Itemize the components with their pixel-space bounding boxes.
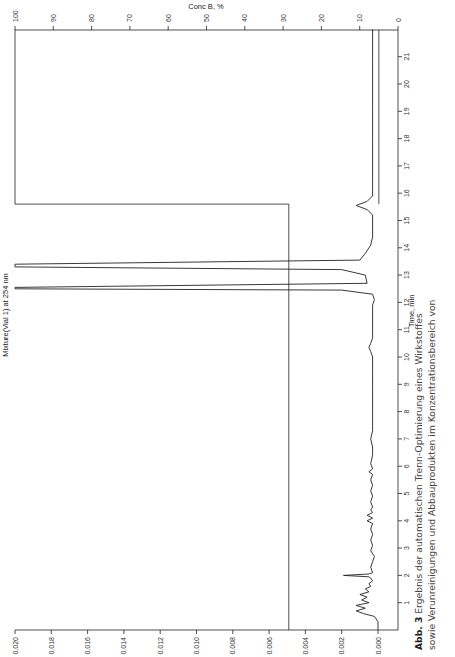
conc-b-tick-label: 50 — [203, 14, 210, 22]
absorbance-tick-label: 0.016 — [84, 637, 91, 655]
time-tick-label: 1 — [403, 601, 410, 605]
time-tick-label: 20 — [403, 80, 410, 88]
time-tick-label: 7 — [403, 437, 410, 441]
absorbance-tick-label: 0.008 — [229, 637, 236, 655]
time-tick-label: 15 — [403, 217, 410, 225]
conc-b-trace — [15, 29, 289, 630]
absorbance-tick-label: 0.010 — [193, 637, 200, 655]
time-tick-label: 19 — [403, 107, 410, 115]
chromatogram-chart: 1009080706050403020100123456789101112131… — [0, 0, 455, 657]
absorbance-tick-label: 0.020 — [12, 637, 19, 655]
time-tick-label: 5 — [403, 491, 410, 495]
conc-b-tick-label: 10 — [356, 14, 363, 22]
time-tick-label: 6 — [403, 464, 410, 468]
time-tick-label: 17 — [403, 162, 410, 170]
absorbance-tick-label: 0.014 — [120, 637, 127, 655]
conc-b-tick-label: 60 — [165, 14, 172, 22]
time-tick-label: 21 — [403, 53, 410, 61]
caption-label: Abb. 3 — [413, 617, 424, 650]
conc-b-tick-label: 40 — [241, 14, 248, 22]
time-tick-label: 3 — [403, 546, 410, 550]
absorbance-tick-label: 0.004 — [302, 637, 309, 655]
plot-area — [15, 29, 379, 630]
conc-b-tick-label: 30 — [280, 14, 287, 22]
conc-b-tick-label: 70 — [126, 14, 133, 22]
absorbance-tick-label: 0.006 — [266, 637, 273, 655]
conc-b-tick-label: 0 — [395, 18, 402, 22]
time-tick-label: 8 — [403, 410, 410, 414]
time-tick-label: 18 — [403, 135, 410, 143]
absorbance-tick-label: 0.002 — [338, 637, 345, 655]
conc-b-tick-label: 20 — [318, 14, 325, 22]
conc-b-tick-label: 100 — [12, 10, 19, 22]
time-tick-label: 14 — [403, 244, 410, 252]
time-tick-label: 2 — [403, 573, 410, 577]
absorbance-axis-title: Mixture(Vial 1) at 254 nm — [1, 273, 10, 357]
time-tick-label: 4 — [403, 519, 410, 523]
absorbance-trace — [15, 29, 378, 630]
caption-line-2: sowie Verunreinigungen und Abbauprodukte… — [425, 310, 438, 650]
conc-b-axis-title: Conc B, % — [188, 2, 224, 11]
absorbance-tick-label: 0.000 — [375, 637, 382, 655]
axes: 1009080706050403020100123456789101112131… — [12, 10, 411, 654]
absorbance-tick-label: 0.018 — [48, 637, 55, 655]
time-tick-label: 9 — [403, 382, 410, 386]
absorbance-tick-label: 0.012 — [157, 637, 164, 655]
time-tick-label: 10 — [403, 353, 410, 361]
figure-caption: Abb. 3 Ergebnis der automatischen Trenn-… — [412, 310, 438, 650]
time-tick-label: 16 — [403, 189, 410, 197]
conc-b-tick-label: 80 — [88, 14, 95, 22]
time-tick-label: 13 — [403, 271, 410, 279]
caption-line-1: Ergebnis der automatischen Trenn-Optimie… — [413, 313, 424, 613]
conc-b-tick-label: 90 — [50, 14, 57, 22]
